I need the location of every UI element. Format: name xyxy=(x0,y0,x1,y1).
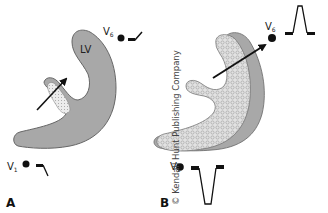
waveform-v1-b xyxy=(199,168,216,204)
panel-a: LV V6 V1 A xyxy=(6,26,142,210)
lv-label: LV xyxy=(80,44,91,55)
lead-v1-label: V1 xyxy=(7,161,18,173)
lv-hypertrophy-diagram: LV V6 V1 A V6 V1 B xyxy=(0,0,328,213)
electrode-v6-b xyxy=(268,34,276,42)
panel-label-b: B xyxy=(160,196,169,210)
copyright-text: © Kendall Hunt Publishing Company xyxy=(171,50,181,205)
electrode-v6 xyxy=(118,35,125,42)
lv-shape xyxy=(14,30,116,148)
lead-v6-label: V6 xyxy=(103,26,114,38)
panel-label-a: A xyxy=(6,196,16,210)
waveform-v1-a xyxy=(43,165,48,176)
electrode-v1 xyxy=(23,161,30,168)
waveform-v6-b xyxy=(293,6,307,33)
lead-v6-label-b: V6 xyxy=(265,21,276,33)
